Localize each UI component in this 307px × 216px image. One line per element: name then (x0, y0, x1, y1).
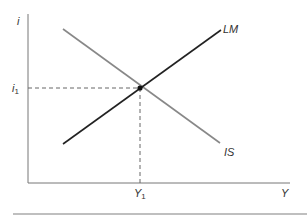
y1-label: Y1 (134, 188, 146, 201)
is-label: IS (224, 147, 234, 158)
x-axis-label: Y (281, 188, 288, 199)
y1-label-sub: 1 (141, 192, 145, 201)
equilibrium-point (137, 85, 142, 90)
y-axis-label: i (17, 16, 19, 27)
diagram-canvas (0, 0, 307, 216)
is-lm-diagram: i Y i1 Y1 LM IS (0, 0, 307, 216)
lm-label: LM (223, 24, 238, 35)
i1-label-sub: 1 (14, 87, 18, 96)
i1-label: i1 (12, 83, 19, 96)
